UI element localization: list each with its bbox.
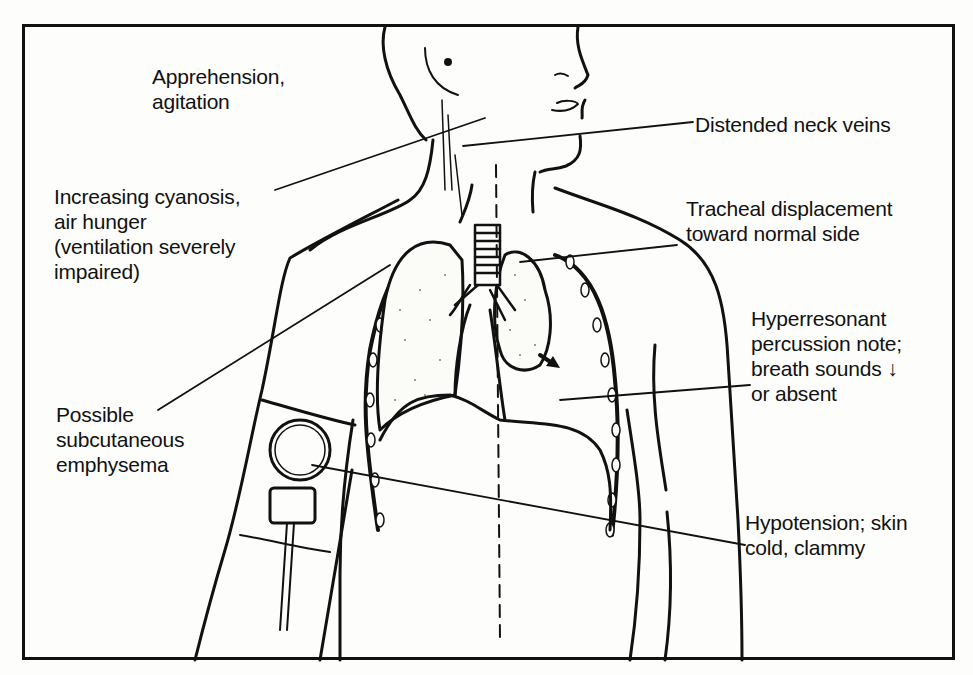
lungs [378, 242, 551, 430]
bp-gauge [240, 420, 330, 630]
label-apprehension: Apprehension, agitation [152, 64, 285, 114]
label-cyanosis: Increasing cyanosis, air hunger (ventila… [54, 184, 240, 284]
label-tracheal-displacement: Tracheal displacement toward normal side [686, 196, 892, 246]
label-hypotension: Hypotension; skin cold, clammy [745, 510, 907, 560]
body-outline [195, 185, 742, 660]
label-neck-veins: Distended neck veins [695, 112, 891, 137]
label-hyperresonant: Hyperresonant percussion note; breath so… [751, 306, 902, 406]
label-subcutaneous-emphysema: Possible subcutaneous emphysema [56, 402, 184, 477]
